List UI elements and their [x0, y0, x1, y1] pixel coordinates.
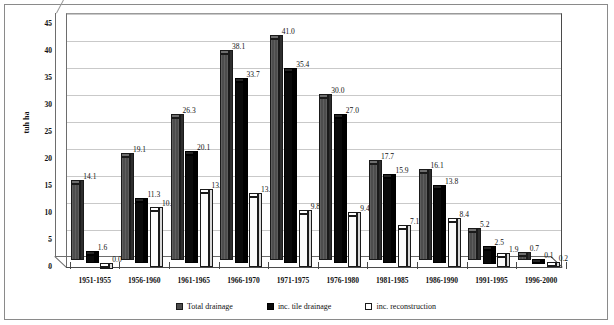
- bar[interactable]: [100, 267, 109, 269]
- x-axis-label: 1991-1995: [465, 276, 517, 285]
- data-label: 11.3: [147, 191, 160, 199]
- data-label: 30.0: [331, 87, 344, 95]
- x-tick-mark: [467, 262, 468, 269]
- bar-side: [392, 174, 396, 264]
- bar[interactable]: [348, 216, 357, 267]
- data-label: 2.5: [495, 239, 504, 247]
- data-label: 16.1: [431, 162, 444, 170]
- legend-swatch-icon-total-drainage: [176, 303, 183, 310]
- bar-face: [483, 250, 492, 264]
- bar-face: [383, 178, 392, 264]
- bar-top: [348, 212, 357, 216]
- bar[interactable]: [483, 250, 492, 264]
- bar-top: [483, 246, 492, 250]
- bar[interactable]: [398, 229, 407, 267]
- bar-top: [532, 259, 541, 263]
- bar[interactable]: [334, 118, 343, 264]
- bar[interactable]: [86, 255, 95, 264]
- x-tick-mark: [70, 262, 71, 269]
- x-axis-label: 1956-1960: [118, 276, 170, 285]
- bar-side: [492, 246, 496, 264]
- bar-face: [150, 211, 159, 267]
- bar-side: [159, 207, 163, 267]
- bar[interactable]: [299, 214, 308, 267]
- bar-top: [249, 193, 258, 197]
- x-tick-mark: [516, 262, 517, 269]
- bar[interactable]: [200, 193, 209, 267]
- bar-side: [209, 189, 213, 267]
- bar-side: [428, 169, 432, 260]
- bar-face: [369, 164, 378, 260]
- bar-top: [398, 225, 407, 229]
- bar-top: [171, 114, 180, 118]
- bar[interactable]: [547, 266, 556, 268]
- bar[interactable]: [235, 82, 244, 264]
- bar-face: [299, 214, 308, 267]
- bar[interactable]: [270, 39, 279, 260]
- bar[interactable]: [150, 211, 159, 267]
- data-label: 27.0: [346, 107, 359, 115]
- bar-top: [497, 253, 506, 257]
- bar-side: [194, 151, 198, 264]
- x-axis-label: 1961-1965: [168, 276, 220, 285]
- bar-top: [448, 218, 457, 222]
- x-axis-label: 1971-1975: [267, 276, 319, 285]
- legend-item-total-drainage[interactable]: Total drainage: [176, 302, 233, 311]
- bar[interactable]: [249, 197, 258, 267]
- bar[interactable]: [135, 202, 144, 263]
- bar[interactable]: [518, 256, 527, 260]
- bar[interactable]: [185, 155, 194, 264]
- bar-face: [270, 39, 279, 260]
- bar-side: [144, 198, 148, 263]
- bar-top: [284, 68, 293, 72]
- legend-item-reconstruction[interactable]: inc. reconstruction: [365, 302, 436, 311]
- bar[interactable]: [497, 257, 506, 267]
- bar[interactable]: [433, 189, 442, 264]
- bar[interactable]: [468, 232, 477, 260]
- chart-legend: Total drainage inc. tile drainage inc. r…: [176, 299, 470, 313]
- bar-side: [527, 252, 531, 260]
- bar-side: [378, 160, 382, 260]
- bar-side: [293, 68, 297, 263]
- bar-top: [468, 228, 477, 232]
- bar-top: [100, 263, 109, 267]
- bar-top: [185, 151, 194, 155]
- legend-label-total-drainage: Total drainage: [187, 302, 233, 311]
- x-tick-mark: [318, 262, 319, 269]
- bar-face: [121, 157, 130, 260]
- data-label: 19.1: [133, 146, 146, 154]
- bar-face: [398, 229, 407, 267]
- bar[interactable]: [532, 263, 541, 265]
- data-label: 13.8: [445, 178, 458, 186]
- bar-top: [369, 160, 378, 164]
- bar[interactable]: [284, 72, 293, 263]
- legend-item-tile-drainage[interactable]: inc. tile drainage: [267, 302, 332, 311]
- bar-side: [180, 114, 184, 260]
- bar-top: [319, 94, 328, 98]
- bar-side: [95, 251, 99, 264]
- bar-top: [135, 198, 144, 202]
- bar[interactable]: [448, 222, 457, 267]
- data-label: 35.4: [296, 61, 309, 69]
- bar[interactable]: [71, 184, 80, 260]
- data-label: 20.1: [197, 144, 210, 152]
- x-tick-mark: [219, 262, 220, 269]
- bar[interactable]: [171, 118, 180, 260]
- bar[interactable]: [383, 178, 392, 264]
- bar-face: [518, 256, 527, 260]
- bar-top: [299, 210, 308, 214]
- bar-face: [171, 118, 180, 260]
- bar-face: [200, 193, 209, 267]
- legend-swatch-icon-reconstruction: [365, 303, 372, 310]
- bar[interactable]: [121, 157, 130, 260]
- legend-label-reconstruction: inc. reconstruction: [376, 302, 436, 311]
- bar[interactable]: [369, 164, 378, 260]
- bar-top: [383, 174, 392, 178]
- data-label: 8.4: [460, 211, 469, 219]
- bar[interactable]: [419, 173, 428, 260]
- bar[interactable]: [319, 98, 328, 260]
- bar-face: [249, 197, 258, 267]
- bar[interactable]: [220, 54, 229, 260]
- bar-side: [457, 218, 461, 267]
- bar-side: [258, 193, 262, 267]
